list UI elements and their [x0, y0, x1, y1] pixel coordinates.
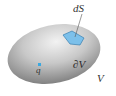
volume-label: V — [97, 73, 104, 84]
volume-body — [2, 16, 106, 92]
gauss-surface-diagram: dS ∂V V q — [0, 0, 116, 96]
surface-element-label: dS — [73, 3, 84, 14]
charge-label: q — [36, 66, 41, 75]
boundary-label: ∂V — [73, 59, 85, 70]
